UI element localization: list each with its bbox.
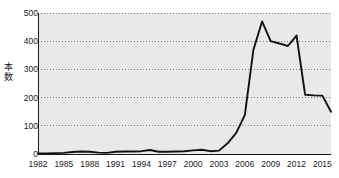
plot-background [38,13,331,154]
plot-area [0,0,339,178]
line-chart: 本数 0100200300400500 19821985198819911994… [0,0,339,178]
